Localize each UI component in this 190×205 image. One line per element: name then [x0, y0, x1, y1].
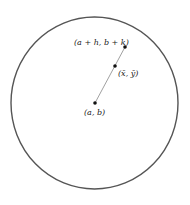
point-mean — [113, 64, 117, 68]
label-center: (a, b) — [84, 108, 105, 117]
label-outer: (a + h, b + k) — [74, 38, 129, 47]
diagram-canvas: (a + h, b + k) (x̄, ȳ) (a, b) — [0, 0, 190, 205]
point-center — [93, 101, 97, 105]
label-mean: (x̄, ȳ) — [118, 69, 138, 78]
